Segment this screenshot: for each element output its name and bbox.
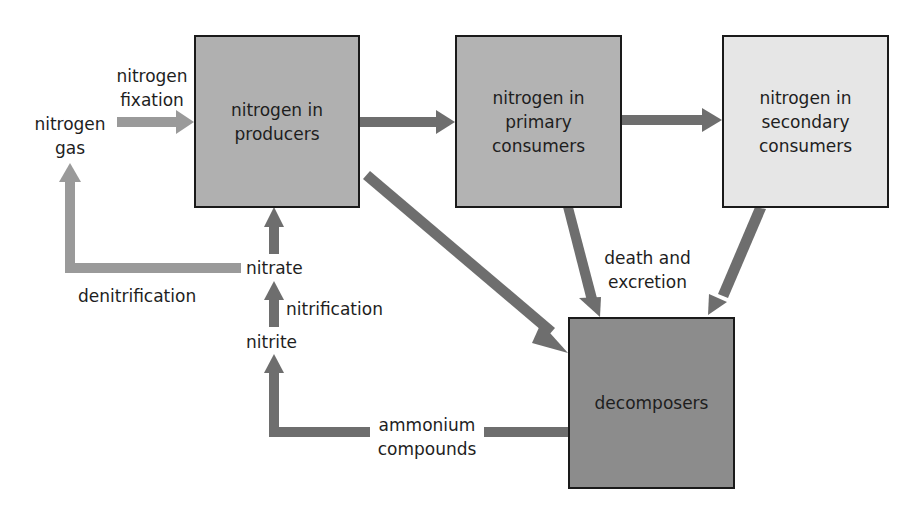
arrow-nitrate-to-producers — [264, 207, 284, 254]
secondary-line1: nitrogen in — [759, 86, 852, 110]
death-line1: death and — [600, 246, 695, 270]
secondary-line2: secondary — [759, 110, 852, 134]
fixation-line2: fixation — [112, 88, 192, 112]
arrow-fixation — [117, 110, 194, 134]
primary-line2: primary — [492, 110, 585, 134]
primary-line3: consumers — [492, 134, 585, 158]
primary-line1: nitrogen in — [492, 86, 585, 110]
label-ammonium-compounds: ammonium compounds — [374, 413, 480, 461]
ammonium-line1: ammonium — [374, 413, 480, 437]
label-denitrification: denitrification — [78, 284, 196, 308]
fixation-line1: nitrogen — [112, 64, 192, 88]
producers-line1: nitrogen in — [231, 98, 323, 122]
secondary-line3: consumers — [759, 134, 852, 158]
label-nitrite: nitrite — [246, 330, 297, 354]
label-nitrogen-gas: nitrogen gas — [30, 112, 110, 160]
nitrogen-gas-line1: nitrogen — [30, 112, 110, 136]
nitrogen-gas-line2: gas — [30, 136, 110, 160]
decomposers-label: decomposers — [595, 391, 709, 415]
death-line2: excretion — [600, 270, 695, 294]
ammonium-line2: compounds — [374, 437, 480, 461]
label-death-and-excretion: death and excretion — [600, 246, 695, 294]
box-decomposers: decomposers — [568, 317, 735, 489]
producers-line2: producers — [231, 122, 323, 146]
arrow-secondary-to-decomposers — [708, 207, 766, 315]
label-nitrogen-fixation: nitrogen fixation — [112, 64, 192, 112]
arrow-primary-to-decomposers — [563, 207, 601, 317]
label-nitrification: nitrification — [286, 297, 383, 321]
arrow-producers-to-primary — [359, 110, 455, 134]
label-nitrate: nitrate — [246, 256, 303, 280]
box-nitrogen-in-primary-consumers: nitrogen in primary consumers — [455, 35, 622, 208]
arrow-primary-to-secondary — [621, 108, 722, 132]
box-nitrogen-in-producers: nitrogen in producers — [194, 35, 360, 208]
arrow-nitrification — [264, 281, 284, 327]
box-nitrogen-in-secondary-consumers: nitrogen in secondary consumers — [722, 35, 889, 208]
